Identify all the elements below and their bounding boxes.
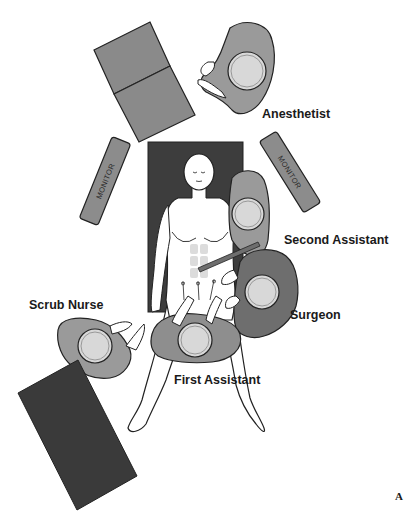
anesthetist-figure — [198, 23, 274, 114]
label-anesthetist: Anesthetist — [262, 107, 330, 121]
label-surgeon: Surgeon — [290, 308, 341, 322]
label-scrub-nurse: Scrub Nurse — [29, 298, 103, 312]
anesthesia-machine — [94, 22, 195, 142]
operating-room-diagram: MONITOR MONITOR — [0, 0, 417, 511]
panel-label: A — [395, 490, 403, 502]
label-first-assistant: First Assistant — [174, 373, 260, 387]
label-second-assistant: Second Assistant — [284, 233, 388, 247]
monitor-left: MONITOR — [79, 136, 131, 225]
instrument-table — [18, 360, 137, 510]
